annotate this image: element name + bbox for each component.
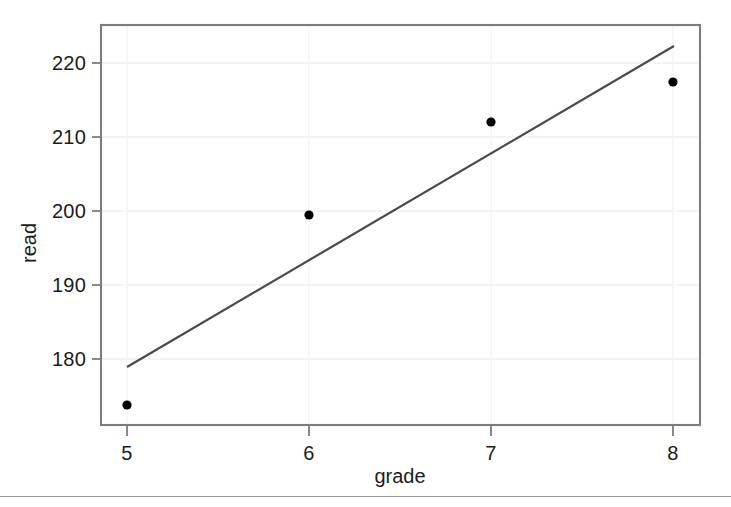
ytick-label-200: 200: [0, 201, 86, 221]
data-point-grade-7: [486, 117, 495, 126]
y-axis-title: read: [19, 223, 39, 263]
ytick-label-180: 180: [0, 349, 86, 369]
fitted-regression-line: [127, 46, 674, 367]
data-point-grade-8: [668, 77, 677, 86]
data-point-grade-5: [122, 400, 131, 409]
xtick-label-7: 7: [485, 443, 496, 463]
x-axis-ticks: [127, 425, 673, 436]
xtick-label-5: 5: [121, 443, 132, 463]
data-point-grade-6: [304, 210, 313, 219]
x-axis-title: grade: [374, 466, 425, 486]
plot-frame: [101, 25, 700, 425]
grid-lines: [101, 25, 700, 425]
xtick-label-8: 8: [667, 443, 678, 463]
ytick-label-220: 220: [0, 53, 86, 73]
y-axis-ticks: [92, 63, 101, 359]
scatter-plot-figure: 220 210 200 190 180 5 6 7 8 read grade: [0, 0, 731, 507]
bottom-divider: [0, 496, 731, 497]
plot-canvas: [0, 0, 731, 507]
ytick-label-210: 210: [0, 127, 86, 147]
ytick-label-190: 190: [0, 275, 86, 295]
xtick-label-6: 6: [303, 443, 314, 463]
